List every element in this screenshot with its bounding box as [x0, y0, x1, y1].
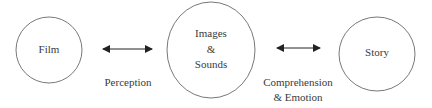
- ampersand-label: &: [181, 42, 241, 56]
- emotion-label: & Emotion: [253, 90, 343, 104]
- perception-label: Perception: [98, 75, 158, 89]
- images-label: Images: [181, 26, 241, 40]
- comprehension-label: Comprehension: [253, 75, 343, 89]
- film-label: Film: [29, 42, 69, 56]
- story-label: Story: [357, 45, 397, 59]
- sounds-label: Sounds: [181, 57, 241, 71]
